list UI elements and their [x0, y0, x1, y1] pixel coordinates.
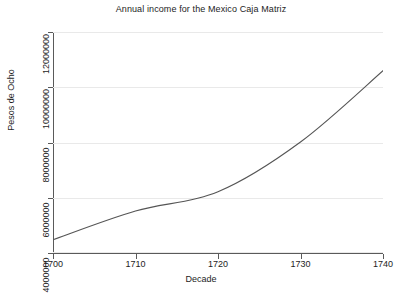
- y-axis-title: Pesos de Ocho: [6, 45, 16, 155]
- y-tick-label: 6000000: [41, 197, 51, 243]
- x-axis-title: Decade: [0, 274, 402, 284]
- y-tick-label: 12000000: [41, 31, 51, 77]
- data-series-layer: [53, 32, 383, 253]
- x-tick-label: 1720: [208, 259, 228, 269]
- x-tick-label: 1730: [290, 259, 310, 269]
- data-line: [53, 71, 383, 240]
- x-tick-label: 1710: [125, 259, 145, 269]
- plot-area: [53, 32, 383, 253]
- chart-container: Annual income for the Mexico Caja Matriz…: [0, 0, 402, 294]
- x-tick-label: 1740: [373, 259, 393, 269]
- x-tick-label: 1700: [43, 259, 63, 269]
- y-tick-label: 8000000: [41, 142, 51, 188]
- chart-title: Annual income for the Mexico Caja Matriz: [0, 4, 402, 14]
- y-tick-label: 10000000: [41, 86, 51, 132]
